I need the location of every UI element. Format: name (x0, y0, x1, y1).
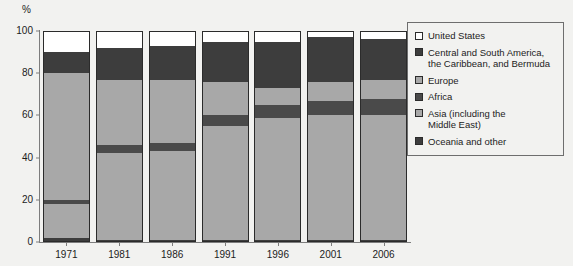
y-axis-tick-mark (36, 157, 40, 158)
bar-segment (96, 31, 143, 48)
legend-item: Africa (415, 91, 557, 103)
legend-swatch-icon (415, 109, 423, 117)
legend-swatch-icon (415, 76, 423, 84)
bar-segment (202, 82, 249, 116)
bar-segment (307, 115, 354, 239)
y-axis-tick-mark (36, 242, 40, 243)
y-axis-tick-label: 100 (2, 26, 40, 36)
x-axis-tick-label: 2001 (320, 249, 342, 260)
bar-segment (254, 31, 301, 42)
legend-item-label: Oceania and other (428, 136, 506, 148)
legend-swatch-icon (415, 137, 423, 145)
legend-item: Europe (415, 75, 557, 87)
bar-1996 (254, 31, 301, 242)
x-axis-tick-label: 1991 (214, 249, 236, 260)
x-axis-tick-mark (225, 242, 226, 246)
x-axis-tick-label: 1981 (108, 249, 130, 260)
bar-1986 (149, 31, 196, 242)
legend-item: United States (415, 30, 557, 42)
bar-segment (202, 126, 249, 240)
bar-segment (254, 42, 301, 88)
y-axis-tick-label: 0 (2, 237, 40, 247)
bar-segment (43, 31, 90, 52)
x-axis-tick-mark (66, 242, 67, 246)
bar-segment (149, 151, 196, 240)
bar-segment (202, 31, 249, 42)
y-axis-tick-label: 40 (2, 153, 40, 163)
x-axis-tick-mark (384, 242, 385, 246)
x-axis-tick-mark (278, 242, 279, 246)
y-axis-tick-label: 80 (2, 68, 40, 78)
x-axis-tick-label: 1971 (55, 249, 77, 260)
legend-item: Central and South America, the Caribbean… (415, 47, 557, 70)
bar-segment (254, 88, 301, 105)
y-axis-tick-mark (36, 199, 40, 200)
y-axis-tick-label: 20 (2, 195, 40, 205)
bar-segment (360, 115, 407, 239)
bar-1991 (202, 31, 249, 242)
bar-segment (96, 80, 143, 145)
bar-segment (307, 82, 354, 101)
bar-segment (307, 101, 354, 116)
x-axis-tick-mark (119, 242, 120, 246)
bar-segment (202, 42, 249, 82)
x-axis-tick-label: 1996 (267, 249, 289, 260)
legend-list: United StatesCentral and South America, … (415, 30, 557, 147)
plot-area: 020406080100 (40, 31, 410, 242)
legend-swatch-icon (415, 48, 423, 56)
bar-segment (360, 31, 407, 39)
bar-segment (254, 118, 301, 240)
legend-item: Asia (including the Middle East) (415, 108, 557, 131)
bar-segment (96, 145, 143, 153)
bar-1981 (96, 31, 143, 242)
bar-segment (307, 31, 354, 37)
bar-segment (43, 200, 90, 204)
legend-item-label: United States (428, 30, 485, 42)
bar-segment (254, 105, 301, 118)
y-axis-tick-mark (36, 31, 40, 32)
bar-segment (202, 115, 249, 126)
x-axis-tick-mark (172, 242, 173, 246)
bar-segment (149, 46, 196, 80)
x-axis-tick-label: 1986 (161, 249, 183, 260)
y-axis-tick-label: 60 (2, 110, 40, 120)
bar-1971 (43, 31, 90, 242)
bar-segment (43, 73, 90, 200)
bar-segment (149, 80, 196, 143)
bar-segment (360, 80, 407, 99)
bar-segment (43, 204, 90, 238)
legend-item-label: Central and South America, the Caribbean… (428, 47, 550, 70)
x-axis-tick-mark (331, 242, 332, 246)
legend-item: Oceania and other (415, 136, 557, 148)
bar-segment (360, 99, 407, 116)
bar-segment (149, 143, 196, 151)
bar-segment (43, 52, 90, 73)
bar-segment (360, 39, 407, 79)
bar-segment (307, 37, 354, 81)
y-axis-unit-label: % (22, 4, 31, 15)
chart-legend: United StatesCentral and South America, … (407, 22, 564, 156)
legend-swatch-icon (415, 93, 423, 101)
legend-swatch-icon (415, 32, 423, 40)
y-axis-tick-mark (36, 73, 40, 74)
bar-segment (149, 31, 196, 46)
legend-item-label: Europe (428, 75, 459, 87)
bar-segment (96, 48, 143, 80)
bar-segment (96, 153, 143, 240)
bar-2006 (360, 31, 407, 242)
legend-item-label: Asia (including the Middle East) (428, 108, 506, 131)
legend-item-label: Africa (428, 91, 452, 103)
x-axis-tick-label: 2006 (372, 249, 394, 260)
bar-2001 (307, 31, 354, 242)
y-axis-tick-mark (36, 115, 40, 116)
